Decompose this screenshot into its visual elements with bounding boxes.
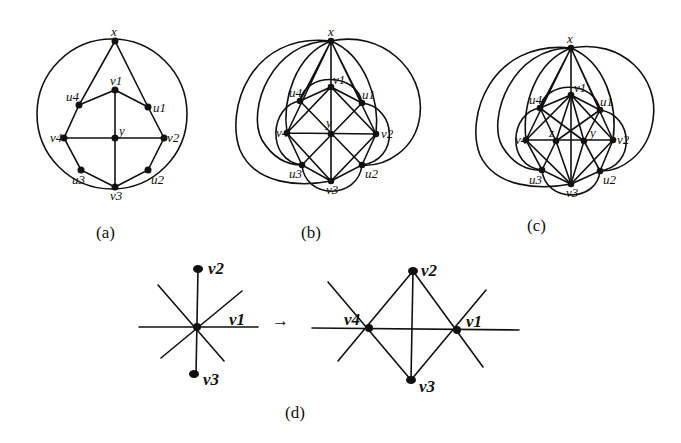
label-v2: v2: [421, 261, 438, 280]
caption-d: (d): [285, 403, 305, 422]
caption-a: (a): [96, 223, 115, 242]
label-y: y: [117, 123, 125, 138]
label-u1: u1: [153, 100, 166, 115]
edge-vertical: [196, 269, 198, 374]
label-v2: v2: [381, 126, 394, 141]
graph-figure: x v1 u4 u1 v4 y v2 u3 u2 v3 (a): [0, 0, 681, 443]
label-u3: u3: [289, 166, 303, 181]
edge-v2-v3: [411, 271, 413, 380]
vertex-v2: [193, 265, 203, 273]
label-v1: v1: [333, 72, 345, 87]
label-v3: v3: [566, 185, 579, 200]
label-v2: v2: [208, 259, 225, 278]
panel-a: x v1 u4 u1 v4 y v2 u3 u2 v3 (a): [37, 24, 187, 242]
label-u4: u4: [66, 89, 80, 104]
vertex-v2: [408, 267, 418, 275]
label-v3: v3: [326, 182, 339, 197]
vertex-v1: [453, 326, 461, 334]
label-v2: v2: [167, 130, 180, 145]
label-u4: u4: [289, 85, 303, 100]
label-v4: v4: [344, 310, 360, 329]
label-v3: v3: [110, 188, 123, 203]
panel-d-right: v2 v4 v1 v3: [312, 261, 519, 396]
label-v1: v1: [229, 310, 245, 329]
label-u2: u2: [603, 172, 617, 187]
panel-d-left: v2 v1 v3: [139, 259, 258, 389]
label-u1: u1: [600, 94, 613, 109]
vertex-v1: [193, 323, 201, 331]
label-v2: v2: [617, 132, 630, 147]
panel-c: x v1 u4 u1 v4 z y v2 u3 u2 v3 (c): [476, 31, 654, 235]
label-z: z: [548, 125, 554, 140]
label-v1: v1: [574, 80, 586, 95]
label-y: y: [324, 115, 332, 130]
label-v4: v4: [515, 132, 528, 147]
panel-b: x v1 u4 u1 v4 y v2 u3 u2 v3 (b): [236, 24, 421, 242]
label-u4: u4: [529, 92, 543, 107]
label-v1: v1: [110, 73, 122, 88]
label-v3: v3: [419, 377, 436, 396]
label-u2: u2: [365, 166, 379, 181]
caption-c: (c): [527, 216, 546, 235]
label-v4: v4: [276, 125, 289, 140]
vertex-v4: [365, 324, 373, 332]
label-x: x: [110, 24, 117, 39]
outer-cycle: [64, 41, 164, 187]
edge-v1-v3-ext: [411, 290, 486, 380]
label-v1: v1: [466, 312, 482, 331]
arrow-icon: →: [272, 311, 289, 330]
label-u1: u1: [362, 87, 375, 102]
label-v3: v3: [203, 370, 220, 389]
label-u2: u2: [151, 172, 165, 187]
label-u3: u3: [72, 172, 86, 187]
label-x: x: [566, 31, 573, 46]
vertex-v3: [406, 376, 416, 384]
label-x: x: [327, 24, 334, 39]
vertex-v3: [189, 370, 199, 378]
caption-b: (b): [301, 223, 321, 242]
label-u3: u3: [529, 172, 543, 187]
edge-diagonal-1: [158, 285, 224, 361]
label-v4: v4: [50, 130, 63, 145]
label-y: y: [588, 125, 596, 140]
